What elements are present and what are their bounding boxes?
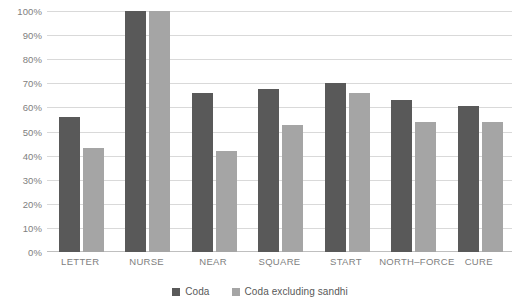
legend-label: Coda	[185, 286, 209, 297]
x-axis-tick-label: CURE	[446, 256, 512, 267]
bar	[192, 93, 213, 252]
y-axis-tick-label: 30%	[23, 174, 42, 185]
bar-group	[47, 11, 113, 252]
bar	[83, 148, 104, 252]
bars-layer	[47, 11, 512, 252]
x-axis-tick-label: NORTH–FORCE	[379, 256, 445, 267]
legend-entry[interactable]: Coda	[172, 286, 209, 297]
bar	[125, 11, 146, 252]
bar	[415, 122, 436, 252]
bar-group	[180, 11, 246, 252]
bar	[482, 122, 503, 252]
x-axis-tick-label: START	[313, 256, 379, 267]
bar-group	[246, 11, 312, 252]
y-axis-tick-label: 100%	[17, 6, 42, 17]
y-axis-tick-label: 50%	[23, 126, 42, 137]
bar	[349, 93, 370, 252]
x-axis-tick-label: NURSE	[113, 256, 179, 267]
bar	[149, 11, 170, 252]
bar-group	[313, 11, 379, 252]
bar-group	[379, 11, 445, 252]
y-axis-tick-label: 70%	[23, 78, 42, 89]
y-axis-tick-label: 20%	[23, 198, 42, 209]
legend-swatch-icon	[172, 288, 180, 296]
bar	[59, 117, 80, 252]
legend-swatch-icon	[232, 288, 240, 296]
chart-legend: CodaCoda excluding sandhi	[0, 286, 520, 297]
bar	[216, 151, 237, 252]
bar-group	[113, 11, 179, 252]
y-axis-tick-label: 60%	[23, 102, 42, 113]
bar-chart: 0%10%20%30%40%50%60%70%80%90%100% LETTER…	[0, 0, 520, 307]
y-axis-tick-label: 10%	[23, 222, 42, 233]
y-axis-tick-label: 0%	[28, 247, 42, 258]
y-axis: 0%10%20%30%40%50%60%70%80%90%100%	[0, 11, 42, 252]
y-axis-tick-label: 80%	[23, 54, 42, 65]
legend-entry[interactable]: Coda excluding sandhi	[232, 286, 348, 297]
bar	[282, 125, 303, 252]
x-axis: LETTERNURSENEARSQUARESTARTNORTH–FORCECUR…	[47, 256, 512, 274]
bar	[391, 100, 412, 252]
bar	[458, 106, 479, 252]
y-axis-tick-label: 40%	[23, 150, 42, 161]
bar	[325, 83, 346, 252]
x-axis-tick-label: LETTER	[47, 256, 113, 267]
legend-label: Coda excluding sandhi	[245, 286, 348, 297]
bar-group	[446, 11, 512, 252]
y-axis-tick-label: 90%	[23, 30, 42, 41]
bar	[258, 89, 279, 252]
x-axis-tick-label: NEAR	[180, 256, 246, 267]
x-axis-tick-label: SQUARE	[246, 256, 312, 267]
